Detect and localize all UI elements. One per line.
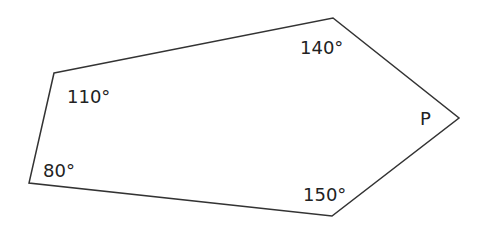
- pentagon-diagram: 110° 140° P 150° 80°: [0, 0, 480, 248]
- pentagon-shape: [29, 18, 459, 216]
- angle-label-p: P: [420, 108, 431, 129]
- angle-label-bottom-right: 150°: [303, 184, 346, 205]
- angle-label-top-right: 140°: [300, 37, 343, 58]
- angle-label-bottom-left: 80°: [43, 160, 75, 181]
- angle-label-top-left: 110°: [67, 86, 110, 107]
